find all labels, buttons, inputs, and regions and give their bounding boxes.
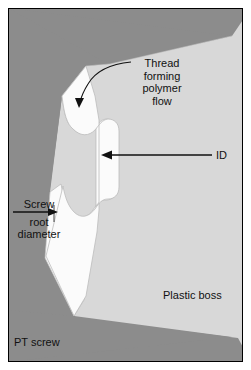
screw-root-line-2: root (8, 216, 70, 229)
inner-diameter-label: ID (216, 149, 227, 162)
pt-screw-label: PT screw (14, 336, 60, 349)
screw-root-diameter-label: Screw root diameter (8, 198, 70, 241)
figure-root: Thread forming polymer flow ID Screw roo… (0, 0, 251, 370)
thread-forming-polymer-flow-label: Thread forming polymer flow (131, 57, 193, 107)
thread-flow-line-2: forming (131, 70, 193, 83)
plastic-boss-label: Plastic boss (163, 289, 222, 302)
thread-flow-line-3: polymer (131, 82, 193, 95)
cross-section-diagram (0, 0, 251, 370)
screw-root-line-1: Screw (8, 198, 70, 211)
thread-flow-line-1: Thread (131, 57, 193, 70)
screw-root-line-3: diameter (8, 228, 70, 241)
thread-flow-line-4: flow (131, 95, 193, 108)
